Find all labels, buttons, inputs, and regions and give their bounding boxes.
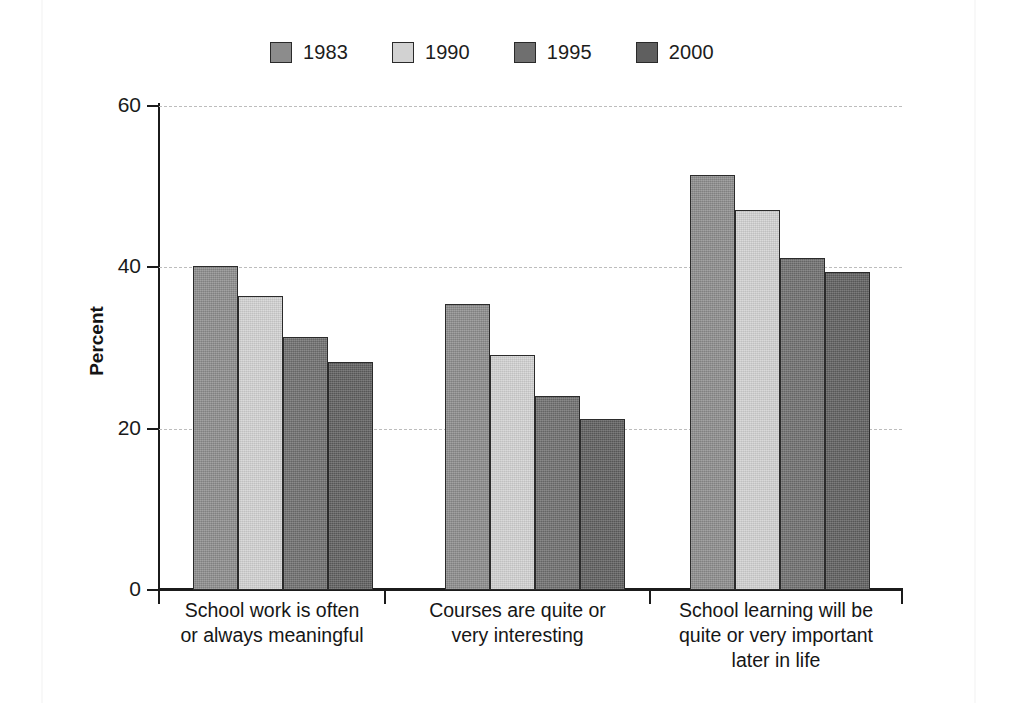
legend-item-2000: 2000: [636, 41, 714, 64]
x-axis-category-line: or always meaningful: [159, 623, 385, 648]
bar-chart-figure: 1983199019952000 Percent 0204060 School …: [0, 0, 1009, 703]
legend-swatch-icon: [514, 42, 536, 63]
legend-swatch-icon: [270, 42, 292, 63]
bar-1995-group1: [283, 337, 328, 590]
gridline: [159, 106, 902, 107]
x-axis-category-line: quite or very important: [650, 623, 902, 648]
legend-item-1995: 1995: [514, 41, 592, 64]
y-axis-label: Percent: [86, 306, 108, 376]
x-axis-category-line: later in life: [650, 648, 902, 673]
x-axis-category-line: School learning will be: [650, 598, 902, 623]
x-axis-category-line: Courses are quite or: [385, 598, 650, 623]
bar-1995-group3: [780, 258, 825, 590]
y-axis-tick: [147, 266, 158, 268]
legend-swatch-icon: [392, 42, 414, 63]
legend-label: 1990: [425, 41, 470, 64]
bar-2000-group2: [580, 419, 625, 590]
x-axis-category-label: School work is oftenor always meaningful: [159, 598, 385, 648]
bar-2000-group3: [825, 272, 870, 590]
x-axis-category-label: School learning will bequite or very imp…: [650, 598, 902, 673]
chart-legend: 1983199019952000: [270, 38, 790, 66]
legend-label: 1983: [303, 41, 348, 64]
y-axis-tick: [147, 105, 158, 107]
y-axis-tick: [147, 589, 158, 591]
legend-label: 2000: [669, 41, 714, 64]
bar-1983-group1: [193, 266, 238, 590]
bar-1983-group3: [690, 175, 735, 590]
legend-item-1983: 1983: [270, 41, 348, 64]
legend-swatch-icon: [636, 42, 658, 63]
legend-label: 1995: [547, 41, 592, 64]
bar-1990-group3: [735, 210, 780, 590]
bar-1983-group2: [445, 304, 490, 590]
bar-1995-group2: [535, 396, 580, 590]
x-axis-category-line: very interesting: [385, 623, 650, 648]
x-axis-category-line: School work is often: [159, 598, 385, 623]
plot-area: [159, 106, 902, 590]
bar-1990-group2: [490, 355, 535, 590]
legend-item-1990: 1990: [392, 41, 470, 64]
bar-2000-group1: [328, 362, 373, 590]
y-axis-tick: [147, 428, 158, 430]
bar-1990-group1: [238, 296, 283, 590]
x-axis-category-label: Courses are quite orvery interesting: [385, 598, 650, 648]
